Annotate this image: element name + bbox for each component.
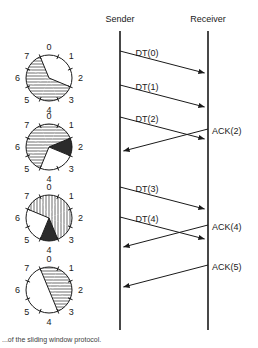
wheel-sector-label: 7 [24,191,29,201]
message-arrow [120,217,205,239]
wheel-sector-label: 3 [69,235,74,245]
window-wheel: 01234567 [15,111,83,184]
message-arrow [123,129,208,151]
lifelines-group: SenderReceiver [105,14,225,330]
wheel-sector-label: 2 [78,142,83,152]
wheel-sector-label: 6 [15,213,20,223]
message-ACK2: ACK(2) [123,126,241,151]
wheel-sector-label: 1 [69,51,74,61]
lifeline-label: Sender [105,14,134,24]
messages-group: DT(0)DT(1)DT(2)ACK(2)DT(3)DT(4)ACK(4)ACK… [120,48,242,287]
message-DT0: DT(0) [120,48,205,73]
figure-caption: ...of the sliding window protocol. [2,336,258,344]
wheel-sector-label: 6 [15,73,20,83]
message-DT2: DT(2) [120,114,205,139]
message-arrow [120,117,205,139]
message-label: DT(3) [136,184,159,194]
message-label: DT(0) [136,48,159,58]
window-wheels-group: 01234567012345670123456701234567 [15,42,83,327]
wheel-sector-label: 4 [46,317,51,327]
wheel-sector-label: 3 [69,307,74,317]
sliding-window-figure: 01234567012345670123456701234567 SenderR… [0,0,258,348]
message-arrow [120,187,205,209]
message-arrow [120,85,205,107]
lifeline-receiver: Receiver [190,14,226,330]
window-wheel: 01234567 [15,254,83,327]
message-label: DT(1) [136,82,159,92]
wheel-sector-label: 5 [24,235,29,245]
wheel-sector-label: 5 [24,307,29,317]
wheel-sector-label: 7 [24,51,29,61]
wheel-sector-label: 2 [78,213,83,223]
figure-canvas: 01234567012345670123456701234567 SenderR… [0,0,258,348]
message-label: ACK(5) [212,262,242,272]
wheel-sector-label: 2 [78,73,83,83]
wheel-sector-label: 7 [24,263,29,273]
wheel-sector-label: 2 [78,285,83,295]
wheel-sector-label: 0 [46,111,51,121]
message-label: DT(4) [136,214,159,224]
message-label: ACK(2) [212,126,242,136]
message-arrow [123,265,208,287]
lifeline-sender: Sender [105,14,134,330]
message-label: ACK(4) [212,222,242,232]
wheel-sector-label: 1 [69,120,74,130]
message-arrow [123,225,208,247]
wheel-sector-label: 6 [15,142,20,152]
wheel-sector-label: 0 [46,42,51,52]
wheel-sector-label: 6 [15,285,20,295]
message-ACK4: ACK(4) [123,222,241,247]
message-arrow [120,51,205,73]
message-DT3: DT(3) [120,184,205,209]
message-ACK5: ACK(5) [123,262,241,287]
wheel-sector-label: 7 [24,120,29,130]
lifeline-label: Receiver [190,14,226,24]
wheel-sector-label: 5 [24,95,29,105]
wheel-sector-label: 0 [46,182,51,192]
window-wheel: 01234567 [15,182,83,255]
wheel-sector-label: 1 [69,263,74,273]
wheel-sector-label: 5 [24,164,29,174]
wheel-sector-label: 3 [69,164,74,174]
message-label: DT(2) [136,114,159,124]
wheel-sector-label: 1 [69,191,74,201]
message-DT4: DT(4) [120,214,205,239]
wheel-sector-label: 0 [46,254,51,264]
window-wheel: 01234567 [15,42,83,115]
wheel-sector-label: 3 [69,95,74,105]
message-DT1: DT(1) [120,82,205,107]
